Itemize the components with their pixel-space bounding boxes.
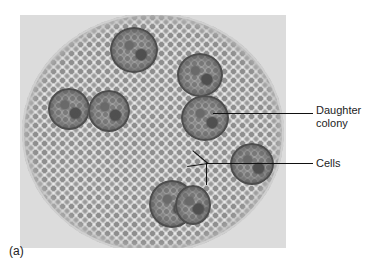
daughter-colony: [48, 88, 90, 130]
cells-leader-line: [207, 163, 313, 164]
cells-pointer-line: [206, 163, 207, 185]
micrograph-photo: [20, 15, 286, 248]
daughter-colony: [88, 90, 130, 132]
daughter-colony: [175, 185, 211, 225]
cells-label: Cells: [316, 157, 340, 170]
daughter-colony-label-line2: colony: [316, 117, 361, 130]
daughter-colony-leader-line: [213, 113, 313, 114]
daughter-colony: [110, 27, 158, 73]
daughter-colony: [181, 95, 229, 141]
daughter-colony-label-line1: Daughter: [316, 104, 361, 117]
daughter-colony: [230, 143, 274, 185]
daughter-colony-label: Daughter colony: [316, 104, 361, 130]
daughter-colony: [177, 53, 223, 97]
figure-caption-label: (a): [9, 244, 24, 258]
